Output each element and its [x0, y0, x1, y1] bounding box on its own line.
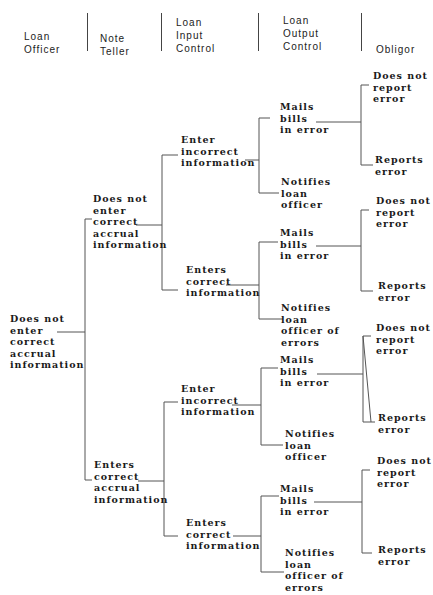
node-output-notifies-4: Notifies loan officer of errors — [285, 547, 344, 593]
node-obligor-report-3: Reports error — [378, 412, 427, 435]
node-obligor-no-report-1: Does not report error — [373, 70, 428, 105]
node-output-mails-3: Mails bills in error — [280, 354, 329, 389]
node-output-notifies-1: Notifies loan officer — [281, 176, 331, 211]
node-input-incorrect-1: Enter incorrect information — [181, 134, 255, 169]
node-obligor-report-1: Reports error — [375, 154, 424, 177]
node-obligor-report-2: Reports error — [378, 280, 427, 303]
node-output-notifies-2: Notifies loan officer of errors — [281, 302, 340, 348]
node-input-incorrect-2: Enter incorrect information — [181, 383, 255, 418]
node-input-correct-1: Enters correct information — [186, 264, 260, 299]
node-obligor-report-4: Reports error — [378, 544, 427, 567]
node-output-mails-1: Mails bills in error — [280, 101, 329, 136]
node-obligor-no-report-2: Does not report error — [376, 195, 431, 230]
node-output-notifies-3: Notifies loan officer — [285, 428, 335, 463]
node-output-mails-2: Mails bills in error — [280, 227, 329, 262]
node-obligor-no-report-3: Does not report error — [376, 322, 431, 357]
node-output-mails-4: Mails bills in error — [280, 483, 329, 518]
node-note-teller-incorrect: Does not enter correct accrual informati… — [93, 193, 167, 251]
node-loan-officer-root: Does not enter correct accrual informati… — [10, 313, 84, 371]
node-input-correct-2: Enters correct information — [186, 517, 260, 552]
node-note-teller-correct: Enters correct accrual information — [94, 459, 168, 505]
node-obligor-no-report-4: Does not report error — [377, 455, 432, 490]
